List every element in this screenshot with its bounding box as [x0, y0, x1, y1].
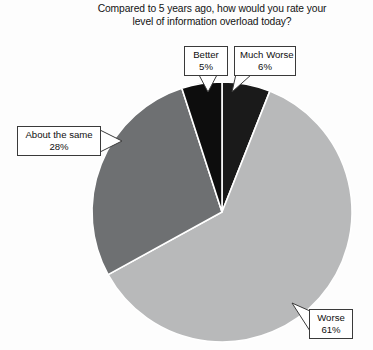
slice-label-worse-value: 61%	[315, 324, 347, 336]
slice-label-better-value: 5%	[190, 61, 222, 73]
slice-label-much-worse-value: 6%	[240, 61, 290, 73]
slice-label-better-name: Better	[190, 49, 222, 61]
slice-label-worse: Worse 61%	[309, 309, 353, 339]
slice-label-about-the-same-value: 28%	[23, 141, 95, 153]
slice-label-better: Better 5%	[184, 46, 228, 76]
slice-label-much-worse: Much Worse 6%	[234, 46, 296, 76]
slice-label-much-worse-name: Much Worse	[240, 49, 290, 61]
pie-chart: Compared to 5 years ago, how would you r…	[0, 0, 373, 350]
slice-label-worse-name: Worse	[315, 312, 347, 324]
slice-label-about-the-same: About the same 28%	[17, 126, 101, 156]
slice-label-about-the-same-name: About the same	[23, 129, 95, 141]
